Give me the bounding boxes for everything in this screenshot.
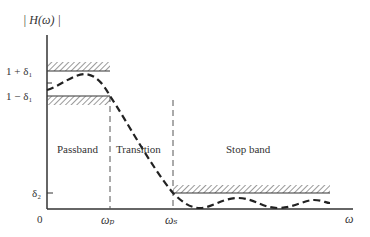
lower-passband-label: 1 − δ₁ [6, 90, 32, 102]
stopband-region-label: Stop band [226, 143, 271, 155]
transition-region-label: Transition [116, 143, 161, 155]
stopband-hatch [173, 185, 330, 193]
omega-axis-label: ω [345, 212, 353, 226]
upper-passband-hatch [47, 62, 110, 71]
stopband-tick-label: δ₂ [32, 187, 41, 199]
stopband-edge-label: ωₛ [165, 213, 178, 227]
lower-passband-hatch [47, 96, 110, 105]
filter-spec-diagram: | H(ω) | 1 + δ₁ 1 − δ₁ δ₂ 0 ωₚ ωₛ ω Pass… [0, 0, 370, 237]
passband-edge-label: ωₚ [101, 213, 114, 227]
passband-region-label: Passband [57, 143, 98, 155]
origin-label: 0 [37, 213, 43, 225]
upper-passband-label: 1 + δ₁ [6, 65, 32, 77]
y-axis-label: | H(ω) | [23, 13, 61, 27]
